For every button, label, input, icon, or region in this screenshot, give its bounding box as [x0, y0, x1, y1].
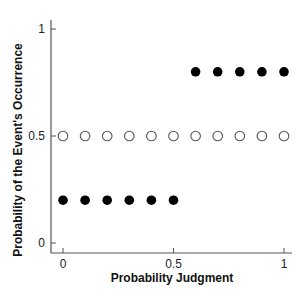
- x-axis-title: Probability Judgment: [111, 271, 234, 285]
- y-axis-title: Probability of the Event's Occurrence: [11, 43, 25, 257]
- x-tick-label: 1: [281, 257, 288, 271]
- filled-point: [102, 195, 112, 205]
- filled-point: [58, 195, 68, 205]
- open-point: [257, 131, 267, 141]
- open-point: [169, 131, 179, 141]
- filled-point: [191, 67, 201, 77]
- y-tick-label: 0: [38, 236, 45, 250]
- x-tick-label: 0: [60, 257, 67, 271]
- filled-point: [235, 67, 245, 77]
- filled-point: [169, 195, 179, 205]
- filled-point: [213, 67, 223, 77]
- filled-point: [80, 195, 90, 205]
- filled-point: [125, 195, 135, 205]
- open-point: [147, 131, 157, 141]
- filled-point: [279, 67, 289, 77]
- open-point: [191, 131, 201, 141]
- y-axis: 00.51: [28, 20, 56, 253]
- x-tick-label: 0.5: [165, 257, 182, 271]
- open-point: [58, 131, 68, 141]
- y-tick-label: 0.5: [28, 129, 45, 143]
- open-point: [279, 131, 289, 141]
- open-point: [80, 131, 90, 141]
- filled-point: [257, 67, 267, 77]
- data-points: [58, 67, 289, 205]
- y-tick-label: 1: [38, 22, 45, 36]
- scatter-chart: 00.51 00.51 Probability Judgment Probabi…: [0, 0, 308, 298]
- filled-point: [147, 195, 157, 205]
- x-axis: 00.51: [51, 248, 292, 271]
- open-point: [235, 131, 245, 141]
- open-point: [213, 131, 223, 141]
- open-point: [125, 131, 135, 141]
- open-point: [102, 131, 112, 141]
